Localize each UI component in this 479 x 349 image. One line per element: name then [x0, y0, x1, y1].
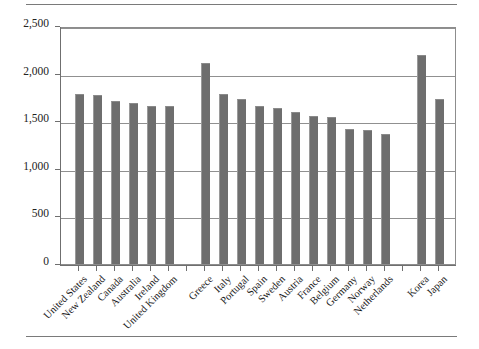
plot-area [60, 27, 456, 265]
bar [129, 103, 138, 264]
x-tick-mark [294, 265, 295, 271]
y-axis [60, 27, 61, 265]
bar [273, 108, 282, 264]
x-axis-label-text: Greece [187, 274, 215, 302]
bar [363, 130, 372, 264]
y-tick-label: 500 [32, 208, 49, 220]
y-tick-mark [55, 26, 60, 27]
x-tick-mark [222, 265, 223, 271]
x-tick-mark [276, 265, 277, 271]
y-tick-mark [55, 74, 60, 75]
x-tick-mark [348, 265, 349, 271]
y-tick-mark [55, 121, 60, 122]
y-tick-label: 2,500 [23, 18, 49, 30]
bar [435, 99, 444, 264]
x-tick-mark [168, 265, 169, 271]
bar [291, 112, 300, 264]
x-tick-mark [78, 265, 79, 271]
y-tick-mark [55, 216, 60, 217]
x-tick-mark [204, 265, 205, 271]
x-tick-mark [258, 265, 259, 271]
bar [147, 106, 156, 265]
bar [327, 117, 336, 264]
x-tick-mark [330, 265, 331, 271]
x-tick-mark [438, 265, 439, 271]
x-tick-mark [96, 265, 97, 271]
bar [201, 63, 210, 264]
x-tick-mark [240, 265, 241, 271]
y-tick-label: 2,000 [23, 66, 49, 78]
x-tick-mark [366, 265, 367, 271]
x-tick-mark [132, 265, 133, 271]
bar [111, 101, 120, 264]
top-rule [26, 4, 457, 5]
bar [93, 95, 102, 264]
x-tick-mark [150, 265, 151, 271]
x-tick-mark [420, 265, 421, 271]
x-tick-mark [186, 265, 187, 271]
bottom-rule [26, 336, 457, 337]
x-tick-mark [384, 265, 385, 271]
x-axis-label: Greece [187, 274, 215, 302]
y-tick-mark [55, 169, 60, 170]
x-tick-mark [402, 265, 403, 271]
bar [75, 94, 84, 264]
y-tick-label: 0 [43, 256, 49, 268]
bar [237, 99, 246, 264]
x-tick-mark [114, 265, 115, 271]
bars-layer [61, 28, 455, 264]
bar [165, 106, 174, 264]
bar [309, 116, 318, 265]
bar [417, 55, 426, 264]
x-tick-mark [312, 265, 313, 271]
bar [219, 94, 228, 264]
bar [381, 134, 390, 264]
bar [345, 129, 354, 264]
y-tick-label: 1,500 [23, 113, 49, 125]
bar [255, 106, 264, 265]
figure: 05001,0001,5002,0002,500 United StatesNe… [0, 0, 479, 349]
y-tick-label: 1,000 [23, 161, 49, 173]
